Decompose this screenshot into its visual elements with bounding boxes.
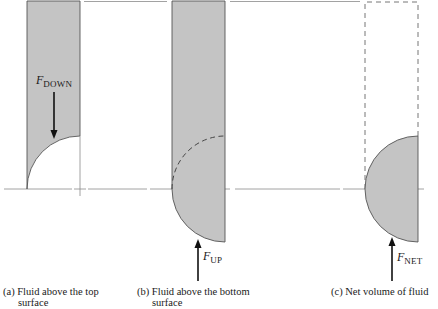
caption-c-line1: (c) Net volume of fluid [331, 286, 428, 297]
f-up-label: FUP [203, 250, 222, 262]
f-net-label: FNET [397, 251, 422, 263]
f-down-label: FDOWN [36, 74, 72, 86]
caption-a: (a) Fluid above the top surface [3, 286, 99, 308]
f-net-subscript: NET [404, 256, 422, 266]
panel-a-fluid-region [27, 1, 86, 196]
f-net-arrow [389, 237, 396, 281]
panel-b-fluid-region [172, 1, 225, 242]
f-up-subscript: UP [210, 255, 222, 265]
f-down-subscript: DOWN [43, 79, 72, 89]
f-up-arrow [195, 239, 202, 281]
caption-c: (c) Net volume of fluid [331, 286, 428, 297]
caption-b-line2: surface [137, 297, 250, 308]
panel-c-net-volume [365, 136, 418, 242]
caption-b-line1: (b) Fluid above the bottom [137, 286, 250, 297]
caption-a-line1: (a) Fluid above the top [3, 286, 99, 297]
caption-b: (b) Fluid above the bottom surface [137, 286, 250, 308]
caption-a-line2: surface [3, 297, 99, 308]
